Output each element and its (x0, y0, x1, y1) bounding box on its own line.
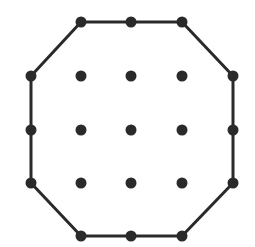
interior-peg (126, 125, 137, 136)
interior-peg (76, 178, 87, 189)
boundary-peg (76, 17, 87, 28)
boundary-peg (126, 231, 137, 242)
boundary-peg (228, 178, 239, 189)
boundary-peg (26, 125, 37, 136)
interior-peg (126, 178, 137, 189)
interior-peg (177, 125, 188, 136)
interior-peg (76, 125, 87, 136)
interior-peg (76, 71, 87, 82)
geoboard-diagram (0, 0, 255, 247)
interior-peg (177, 71, 188, 82)
boundary-peg (228, 71, 239, 82)
background (0, 0, 255, 247)
boundary-peg (126, 17, 137, 28)
boundary-peg (228, 125, 239, 136)
boundary-peg (26, 178, 37, 189)
boundary-peg (177, 17, 188, 28)
boundary-peg (26, 71, 37, 82)
interior-peg (177, 178, 188, 189)
interior-peg (126, 71, 137, 82)
boundary-peg (177, 231, 188, 242)
boundary-peg (76, 231, 87, 242)
